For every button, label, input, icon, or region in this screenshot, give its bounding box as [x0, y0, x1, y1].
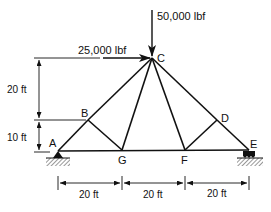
dim-label-20ft-vertical: 20 ft	[7, 84, 27, 95]
node-label-C: C	[157, 52, 165, 64]
dim-label-10ft-vertical: 10 ft	[7, 132, 27, 143]
truss-members	[58, 58, 249, 151]
node-label-A: A	[49, 137, 57, 149]
member-CF	[152, 58, 185, 150]
node-label-B: B	[81, 107, 88, 119]
member-CD	[152, 58, 217, 120]
truss-diagram: 50,000 lbf 25,000 lbf A B C D E F G	[0, 0, 271, 212]
horizontal-load-label: 25,000 lbf	[78, 44, 127, 56]
dim-label-span-GF: 20 ft	[143, 189, 163, 200]
member-FD	[185, 120, 217, 150]
truss-svg: 50,000 lbf 25,000 lbf A B C D E F G	[0, 0, 271, 212]
dim-label-span-AG: 20 ft	[79, 189, 99, 200]
member-DE	[217, 120, 249, 150]
node-label-D: D	[221, 112, 229, 124]
member-AB	[58, 120, 88, 151]
dim-label-span-FE: 20 ft	[207, 188, 227, 199]
vertical-load-label: 50,000 lbf	[157, 10, 206, 22]
member-AE-bottom-chord	[58, 150, 249, 151]
pin-support-icon	[46, 151, 70, 166]
vertical-dimensions	[34, 58, 100, 152]
node-label-G: G	[118, 154, 127, 166]
node-label-F: F	[181, 154, 188, 166]
roller-support-icon	[237, 151, 263, 166]
node-label-E: E	[250, 138, 257, 150]
member-BG	[88, 120, 122, 150]
